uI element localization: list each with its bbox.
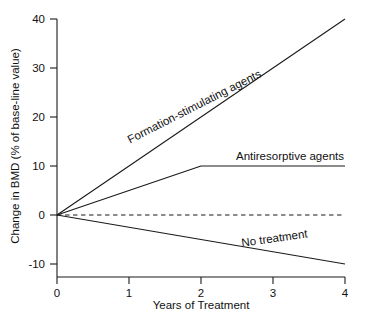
bmd-change-line-chart: 40 30 20 10 0 -10 0 1 2 3 4 Change in BM… — [0, 0, 370, 311]
y-tick-label-minus10: -10 — [28, 258, 45, 270]
series-line-formation-stimulating-agents — [57, 19, 345, 215]
series-label-formation-stimulating-agents: Formation-stimulating agents — [125, 67, 263, 145]
x-axis — [57, 277, 345, 284]
y-tick-label-10: 10 — [32, 160, 45, 172]
series-label-antiresorptive-agents: Antiresorptive agents — [236, 150, 344, 162]
x-tick-label-4: 4 — [342, 287, 349, 299]
x-axis-title: Years of Treatment — [153, 299, 251, 311]
y-axis-title: Change in BMD (% of base-line value) — [9, 48, 21, 244]
x-tick-label-2: 2 — [198, 287, 204, 299]
x-tick-label-3: 3 — [270, 287, 276, 299]
series-label-no-treatment: No treatment — [241, 227, 309, 248]
y-tick-label-40: 40 — [32, 13, 45, 25]
x-tick-label-0: 0 — [54, 287, 60, 299]
chart-canvas: 40 30 20 10 0 -10 0 1 2 3 4 Change in BM… — [0, 0, 370, 311]
y-axis — [50, 19, 57, 277]
y-tick-label-30: 30 — [32, 62, 45, 74]
y-tick-label-20: 20 — [32, 111, 45, 123]
series-line-antiresorptive-agents — [57, 166, 345, 215]
x-tick-label-1: 1 — [126, 287, 132, 299]
y-tick-label-0: 0 — [39, 209, 45, 221]
